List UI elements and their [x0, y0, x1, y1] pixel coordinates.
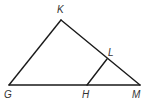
geometry-diagram: K G M L H — [0, 0, 149, 103]
point-label-l: L — [108, 47, 114, 58]
point-label-g: G — [4, 89, 12, 100]
segment-km — [61, 20, 140, 85]
point-label-h: H — [82, 89, 90, 100]
point-label-m: M — [132, 89, 141, 100]
point-label-k: K — [57, 4, 65, 15]
segment-lh — [87, 59, 107, 85]
segment-gk — [9, 20, 61, 85]
